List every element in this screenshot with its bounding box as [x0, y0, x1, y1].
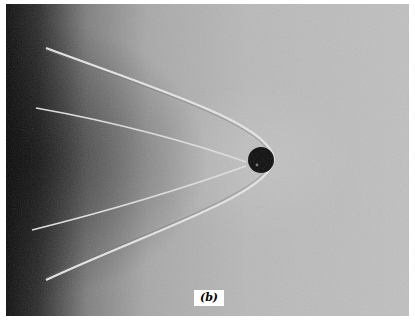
shadowgraph-image	[6, 4, 409, 316]
panel-label: (b)	[194, 290, 224, 306]
shadowgraph-photo	[6, 4, 409, 316]
